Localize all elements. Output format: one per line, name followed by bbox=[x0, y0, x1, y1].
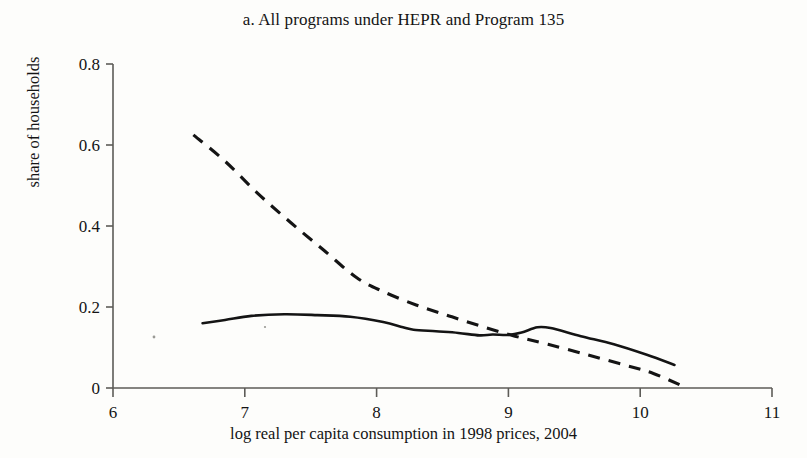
x-tick-label: 11 bbox=[764, 403, 780, 422]
axes-group bbox=[113, 64, 772, 388]
x-tick-label: 10 bbox=[632, 403, 649, 422]
y-tick-label: 0 bbox=[92, 379, 101, 398]
x-axis-label: log real per capita consumption in 1998 … bbox=[0, 424, 807, 444]
tick-labels-group: 00.20.40.60.867891011 bbox=[79, 55, 780, 422]
x-tick-label: 7 bbox=[241, 403, 250, 422]
print-speck bbox=[264, 326, 266, 328]
plot-canvas: 00.20.40.60.867891011 bbox=[0, 0, 807, 458]
figure-panel-a: a. All programs under HEPR and Program 1… bbox=[0, 0, 807, 458]
y-tick-label: 0.2 bbox=[79, 298, 100, 317]
series-solid-line bbox=[203, 314, 675, 365]
y-tick-label: 0.8 bbox=[79, 55, 100, 74]
axis-lines bbox=[113, 64, 772, 388]
ticks-group bbox=[106, 64, 772, 397]
x-tick-label: 6 bbox=[109, 403, 118, 422]
x-tick-label: 9 bbox=[504, 403, 513, 422]
series-dashed-line bbox=[193, 135, 682, 386]
x-tick-label: 8 bbox=[372, 403, 381, 422]
y-tick-label: 0.6 bbox=[79, 136, 100, 155]
print-speck bbox=[153, 336, 156, 339]
data-series-group bbox=[193, 135, 682, 386]
y-tick-label: 0.4 bbox=[79, 217, 101, 236]
